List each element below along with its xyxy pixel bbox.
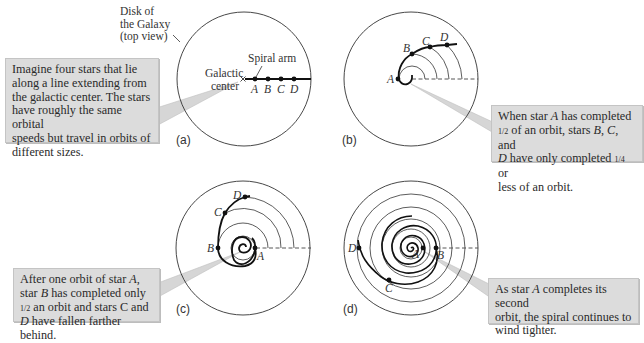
star-label-a: A: [250, 83, 259, 95]
disk-label-line: Disk of: [120, 5, 170, 18]
star-label-c: C: [277, 83, 285, 95]
callout-line: Imagine four stars that lie: [12, 63, 152, 77]
star-d: [243, 195, 248, 200]
callout-line: 1/2 of an orbit, stars B, C, and: [498, 124, 636, 153]
panel-label-a: (a): [176, 133, 191, 147]
star-label-a: A: [411, 248, 420, 260]
star-label-d: D: [289, 83, 299, 95]
disk-of-galaxy-label: Disk of the Galaxy (top view): [120, 5, 170, 43]
star-b: [410, 52, 415, 57]
star-d: [292, 77, 297, 82]
callout-b-pointer: [411, 84, 497, 132]
star-a: [396, 77, 401, 82]
panel-label-c: (c): [176, 302, 190, 316]
star-b: [266, 77, 271, 82]
callout-c-pointer: [150, 252, 240, 296]
disk-leader-line: [173, 35, 180, 42]
star-a: [421, 246, 426, 251]
spiral-arm-leader: [256, 66, 262, 77]
callout-d: As star A completes its second orbit, th…: [488, 278, 639, 324]
callout-line: different sizes.: [12, 146, 152, 160]
callout-line: speeds but travel in orbits of: [12, 132, 152, 146]
callout-line: wind tighter.: [495, 324, 632, 338]
disk-label-line: the Galaxy: [120, 18, 170, 31]
star-label-b: B: [207, 242, 214, 254]
callout-line: have roughly the same orbital: [12, 104, 152, 132]
callout-line: the galactic center. The stars: [12, 91, 152, 105]
star-label-a: A: [386, 73, 395, 85]
callout-line: D have fallen farther behind.: [20, 315, 153, 343]
star-label-d: D: [347, 242, 357, 254]
star-label-b: B: [403, 42, 410, 54]
star-label-c: C: [385, 282, 393, 294]
panel-label-b: (b): [342, 133, 357, 147]
star-c: [279, 77, 284, 82]
star-d: [445, 43, 450, 48]
callout-line: star B has completed only: [20, 287, 153, 301]
disk-label-line: (top view): [120, 30, 170, 43]
star-label-a: A: [256, 250, 265, 262]
panel-d: A B C D: [344, 181, 493, 315]
callout-line: along a line extending from: [12, 77, 152, 91]
panel-b: A B C D: [344, 12, 497, 146]
fraction: 1/2: [498, 127, 508, 136]
callout-line: 1/2 an orbit and stars C and: [20, 301, 153, 316]
star-a: [253, 77, 258, 82]
star-label-d: D: [232, 189, 242, 201]
panel-label-d: (d): [343, 302, 358, 316]
callout-d-pointer: [425, 252, 493, 296]
fraction: 1/2: [20, 304, 30, 313]
star-label-b: B: [437, 249, 444, 261]
callout-line: less of an orbit.: [498, 181, 636, 195]
star-label-c: C: [422, 35, 430, 47]
callout-c: After one orbit of star A, star B has co…: [13, 268, 160, 322]
callout-line: When star A has completed: [498, 110, 636, 124]
star-d: [357, 246, 362, 251]
panel-c: A B C D: [150, 181, 311, 315]
spiral-arm-label: Spiral arm: [248, 52, 296, 65]
spiral-arm-c: [218, 196, 256, 266]
star-c: [223, 211, 228, 216]
callout-b: When star A has completed 1/2 of an orbi…: [491, 105, 643, 162]
star-label-c: C: [214, 206, 222, 218]
star-b: [216, 246, 221, 251]
galactic-center-label: Galactic center: [205, 67, 239, 92]
callout-a: Imagine four stars that lie along a line…: [5, 58, 159, 143]
star-label-d: D: [439, 31, 449, 43]
callout-line: D have only completed 1/4 or: [498, 152, 636, 181]
galactic-center-line: center: [205, 80, 239, 93]
fraction: 1/4: [614, 155, 624, 164]
orbit-arc-d: [447, 45, 462, 79]
callout-line: orbit, the spiral continues to: [495, 311, 632, 325]
star-label-b: B: [264, 83, 271, 95]
callout-line: After one orbit of star A,: [20, 273, 153, 287]
callout-line: As star A completes its second: [495, 283, 632, 311]
orbit-arc-c: [430, 47, 449, 79]
galactic-center-line: Galactic: [205, 67, 239, 80]
